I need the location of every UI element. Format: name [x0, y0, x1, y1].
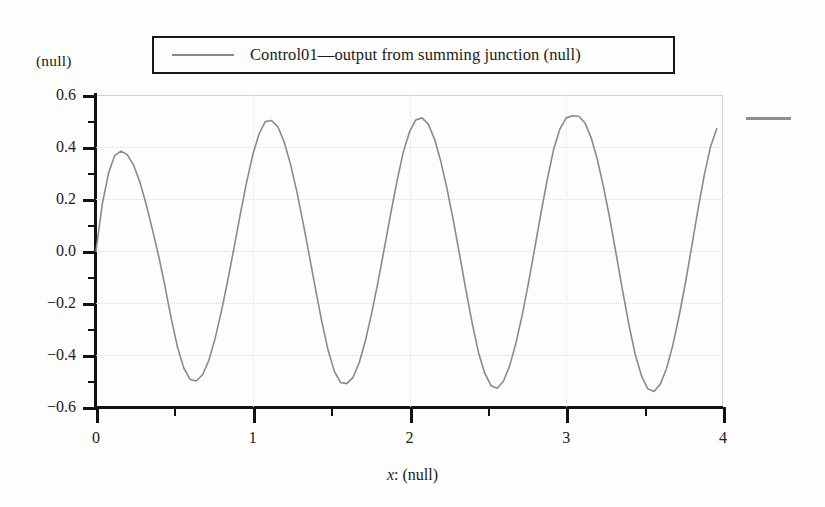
y-tick-label: −0.2: [47, 294, 76, 312]
y-tick-label: 0.4: [56, 138, 76, 156]
series-line-control01: [96, 95, 723, 407]
y-tick-minor: [88, 381, 96, 383]
y-tick-minor: [88, 329, 96, 331]
x-tick-major: [723, 407, 726, 423]
y-tick-major: [83, 303, 96, 306]
y-tick-major: [83, 407, 96, 410]
figure-root: (null) Control01—output from summing jun…: [0, 0, 825, 507]
x-tick-minor: [488, 407, 490, 416]
y-tick-minor: [88, 121, 96, 123]
x-axis-caption-variable: x: [387, 466, 394, 483]
y-tick-major: [83, 355, 96, 358]
x-tick-minor: [174, 407, 176, 416]
x-tick-label: 3: [562, 429, 570, 447]
y-tick-major: [83, 199, 96, 202]
y-tick-major: [83, 147, 96, 150]
y-tick-major: [83, 95, 96, 98]
x-tick-minor: [331, 407, 333, 416]
x-axis-caption: x: (null): [0, 466, 825, 484]
x-tick-label: 2: [406, 429, 414, 447]
plot-area: 0.60.40.20.0−0.2−0.4−0.6 01234: [96, 95, 723, 407]
clipped-legend-line-artifact: [746, 117, 791, 120]
y-tick-label: 0.2: [56, 190, 76, 208]
x-tick-major: [410, 407, 413, 423]
y-tick-minor: [88, 277, 96, 279]
y-tick-label: 0.6: [56, 86, 76, 104]
x-tick-label: 1: [249, 429, 257, 447]
legend-line-swatch: [172, 54, 234, 56]
y-tick-minor: [88, 225, 96, 227]
x-tick-major: [96, 407, 99, 423]
y-tick-label: −0.6: [47, 398, 76, 416]
y-axis-unit-label: (null): [36, 52, 72, 70]
y-tick-minor: [88, 173, 96, 175]
x-tick-label: 0: [92, 429, 100, 447]
x-tick-major: [253, 407, 256, 423]
legend-entry-label: Control01—output from summing junction (…: [250, 45, 581, 65]
y-tick-label: −0.4: [47, 346, 76, 364]
y-tick-label: 0.0: [56, 242, 76, 260]
legend-box: Control01—output from summing junction (…: [152, 36, 675, 74]
x-tick-major: [566, 407, 569, 423]
y-tick-major: [83, 251, 96, 254]
x-tick-label: 4: [719, 429, 727, 447]
x-axis-caption-unit: : (null): [394, 466, 438, 483]
x-tick-minor: [645, 407, 647, 416]
